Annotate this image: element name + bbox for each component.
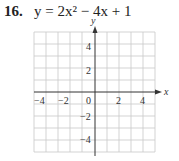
coordinate-grid: x y −4 −2 0 2 4 4 2 −2 −4 [0, 0, 179, 161]
x-tick: −4 [34, 95, 45, 106]
x-tick: 4 [140, 95, 145, 106]
axes [34, 30, 158, 156]
y-tick: −2 [80, 111, 91, 122]
x-axis-label: x [163, 86, 169, 97]
y-axis-label: y [90, 15, 96, 26]
y-arrow-icon [93, 26, 98, 33]
x-tick: −2 [58, 95, 69, 106]
x-tick: 0 [86, 95, 91, 106]
x-tick: 2 [116, 95, 121, 106]
y-tick: 4 [86, 41, 91, 52]
y-tick: −4 [80, 134, 91, 145]
x-arrow-icon [155, 90, 162, 95]
y-tick: 2 [86, 65, 91, 76]
